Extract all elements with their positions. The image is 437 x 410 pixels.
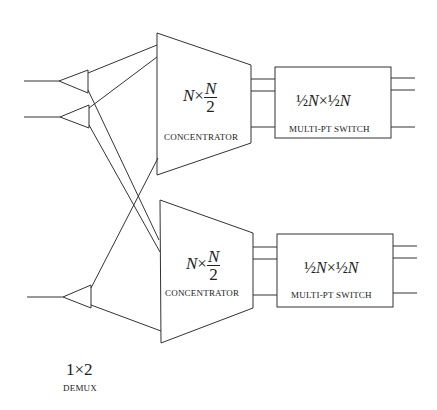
formula-n: N bbox=[308, 92, 319, 109]
wire-d1-to-lower bbox=[88, 90, 159, 240]
times-sign: × bbox=[194, 86, 204, 105]
upper-switch-formula: ½N×½N bbox=[296, 92, 350, 110]
lower-switch-caption: MULTI-PT SWITCH bbox=[291, 290, 372, 300]
lower-concentrator-caption: CONCENTRATOR bbox=[165, 288, 239, 298]
upper-switch-caption: MULTI-PT SWITCH bbox=[289, 124, 370, 134]
wire-d3-to-upper bbox=[91, 158, 158, 288]
upper-concentrator-formula: N×N2 bbox=[183, 80, 217, 115]
half-sign: ½ bbox=[328, 92, 340, 109]
wire-d2-to-upper bbox=[89, 57, 157, 108]
fraction-numerator: N bbox=[207, 248, 220, 266]
formula-n: N bbox=[183, 86, 194, 105]
demux-label: 1×2 bbox=[66, 360, 93, 380]
demux-2-triangle-icon bbox=[60, 105, 89, 128]
wire-d1-to-upper bbox=[88, 45, 157, 73]
times-sign: × bbox=[197, 254, 207, 273]
half-sign: ½ bbox=[304, 259, 316, 276]
formula-n: N bbox=[186, 254, 197, 273]
lower-concentrator-formula: N×N2 bbox=[186, 248, 220, 283]
demux-1-triangle-icon bbox=[59, 70, 88, 93]
wire-d3-to-lower bbox=[91, 305, 161, 331]
lower-switch-formula: ½N×½N bbox=[304, 259, 358, 277]
half-sign: ½ bbox=[296, 92, 308, 109]
formula-n: N bbox=[340, 92, 351, 109]
fraction-denominator: 2 bbox=[204, 98, 217, 115]
formula-n: N bbox=[316, 259, 327, 276]
demux-3-triangle-icon bbox=[63, 285, 91, 308]
formula-n: N bbox=[348, 259, 359, 276]
times-sign: × bbox=[327, 259, 336, 276]
times-sign: × bbox=[319, 92, 328, 109]
fraction-numerator: N bbox=[204, 80, 217, 98]
diagram-canvas: N×N2 CONCENTRATOR N×N2 CONCENTRATOR ½N×½… bbox=[0, 0, 437, 410]
upper-concentrator-caption: CONCENTRATOR bbox=[164, 132, 238, 142]
fraction: N2 bbox=[207, 248, 220, 283]
demux-caption: DEMUX bbox=[63, 383, 97, 393]
wire-d2-to-lower bbox=[89, 125, 160, 252]
diagram-wires bbox=[0, 0, 437, 410]
fraction-denominator: 2 bbox=[207, 266, 220, 283]
fraction: N2 bbox=[204, 80, 217, 115]
half-sign: ½ bbox=[336, 259, 348, 276]
